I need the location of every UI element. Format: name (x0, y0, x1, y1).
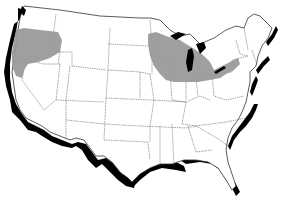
us-map (0, 0, 283, 199)
